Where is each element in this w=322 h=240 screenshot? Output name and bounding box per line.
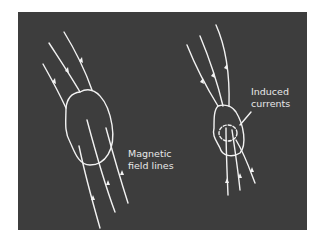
- field-line: [79, 146, 100, 228]
- arrow-icon: [250, 167, 254, 172]
- diagram-canvas: Magnetic field lines Induced currents: [0, 0, 322, 240]
- field-line: [64, 32, 92, 90]
- induced-currents-label-line2: currents: [251, 98, 290, 109]
- induced-current-loop: [219, 125, 237, 141]
- arrow-icon: [225, 178, 229, 183]
- magnetic-field-label-line2: field lines: [128, 160, 174, 171]
- field-line: [232, 130, 240, 190]
- induced-label-pointer: [240, 112, 251, 125]
- field-line: [106, 128, 128, 203]
- arrowheads: [52, 57, 254, 200]
- induced-currents-label-line1: Induced: [251, 86, 289, 97]
- magnetic-field-label-line1: Magnetic: [128, 148, 172, 159]
- arrow-icon: [120, 170, 124, 175]
- field-line: [226, 128, 228, 195]
- small-body-outline: [213, 105, 243, 155]
- arrow-icon: [106, 180, 110, 185]
- field-line: [43, 64, 66, 108]
